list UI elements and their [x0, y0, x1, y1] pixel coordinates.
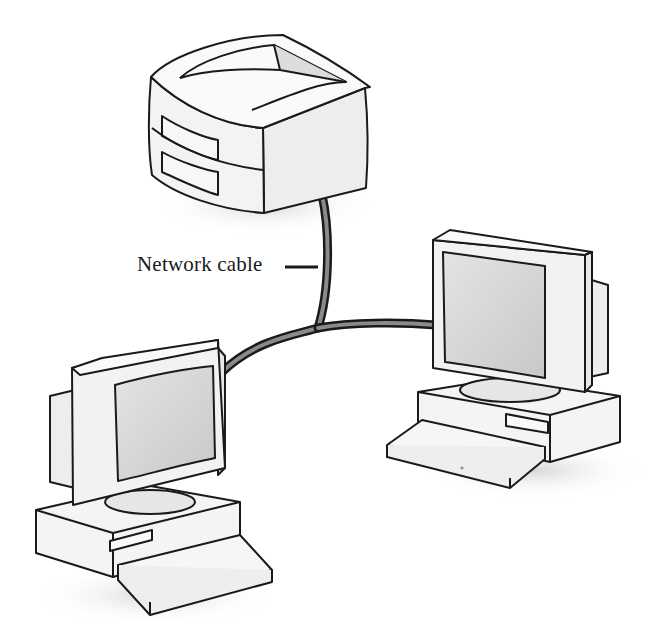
network-cable-label: Network cable	[137, 252, 263, 277]
desktop-computer-icon	[387, 230, 620, 488]
network-diagram: Network cable	[0, 0, 662, 632]
server-icon	[149, 35, 370, 213]
